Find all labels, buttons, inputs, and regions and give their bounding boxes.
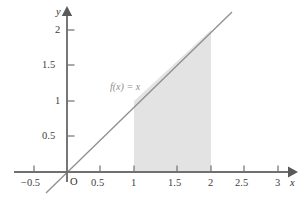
y-axis-arrowhead bbox=[62, 6, 72, 16]
shaded-area-region bbox=[134, 30, 211, 172]
x-tick-label--0.5: −0.5 bbox=[21, 178, 40, 189]
y-tick-label-1.5: 1.5 bbox=[42, 60, 55, 71]
x-tick-label-2: 2 bbox=[208, 178, 213, 189]
x-tick-label-3: 3 bbox=[275, 178, 280, 189]
y-tick-label-1: 1 bbox=[55, 96, 60, 107]
graph-figure: −0.5 0.5 1 1.5 2 2.5 3 0.5 1 1.5 2 O x y… bbox=[0, 0, 306, 218]
x-tick-label-1: 1 bbox=[131, 178, 136, 189]
x-axis-arrowhead bbox=[288, 167, 298, 178]
plot-canvas bbox=[0, 0, 306, 218]
y-tick-marks bbox=[67, 30, 75, 136]
origin-label: O bbox=[70, 177, 78, 188]
x-axis-name-label: x bbox=[290, 178, 295, 189]
x-tick-label-1.5: 1.5 bbox=[168, 178, 181, 189]
y-axis-name-label: y bbox=[56, 7, 61, 18]
y-tick-label-2: 2 bbox=[55, 25, 60, 36]
function-annotation-label: f(x) = x bbox=[110, 82, 140, 92]
y-tick-label-0.5: 0.5 bbox=[42, 131, 55, 142]
x-tick-label-0.5: 0.5 bbox=[91, 178, 104, 189]
x-tick-label-2.5: 2.5 bbox=[235, 178, 248, 189]
